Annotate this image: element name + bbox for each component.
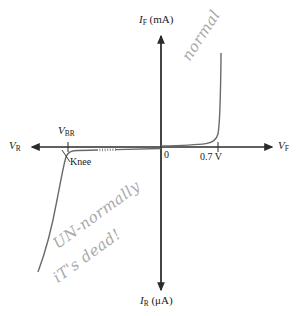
- knee-label: Knee: [70, 157, 91, 167]
- diode-curve-canvas: [0, 0, 302, 316]
- diode-iv-characteristic-figure: IF (mA) IR (μA) VR VF VBR Knee 0 0.7 V n…: [0, 0, 302, 316]
- axis-label-reverse-current: IR (μA): [140, 295, 173, 307]
- breakdown-voltage-label: VBR: [58, 125, 75, 137]
- reverse-leakage-curve-right: [116, 149, 161, 150]
- forward-bias-curve: [161, 53, 221, 146]
- origin-label: 0: [164, 150, 169, 160]
- forward-voltage-value-label: 0.7 V: [200, 152, 222, 162]
- reverse-breakdown-curve: [38, 151, 74, 272]
- reverse-leakage-curve-left: [74, 150, 98, 151]
- knee-leader-line: [62, 150, 70, 162]
- axis-label-forward-current: IF (mA): [139, 14, 173, 26]
- axis-label-forward-voltage: VF: [278, 140, 289, 152]
- axis-label-reverse-voltage: VR: [9, 140, 21, 152]
